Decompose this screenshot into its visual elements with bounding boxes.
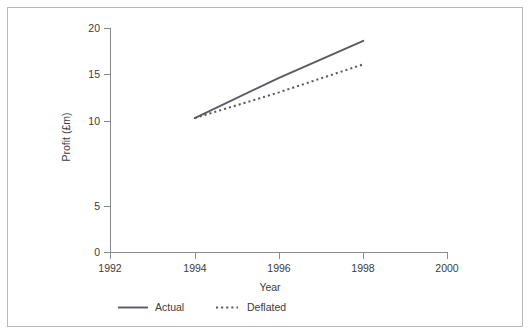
x-tick-label-1992: 1992 — [98, 262, 122, 274]
y-tick-label-20: 20 — [88, 22, 100, 34]
x-tick-label-1996: 1996 — [267, 262, 291, 274]
legend-label-actual: Actual — [155, 301, 184, 313]
chart-legend: Actual Deflated — [118, 301, 286, 313]
chart-figure: 0 5 10 15 20 1992 1994 1996 1998 2000 Ye… — [0, 0, 530, 336]
series-line-actual — [195, 41, 364, 118]
y-tick-label-5: 5 — [94, 200, 100, 212]
x-axis-title: Year — [259, 281, 281, 293]
series-group — [195, 41, 364, 118]
y-tick-label-0: 0 — [94, 246, 100, 258]
profit-line-chart: 0 5 10 15 20 1992 1994 1996 1998 2000 Ye… — [0, 0, 530, 336]
x-tick-label-1994: 1994 — [183, 262, 207, 274]
x-tick-label-1998: 1998 — [351, 262, 375, 274]
y-tick-label-15: 15 — [88, 68, 100, 80]
y-axis-title: Profit (£m) — [60, 112, 72, 161]
y-tick-group: 0 5 10 15 20 — [88, 22, 110, 258]
y-tick-label-10: 10 — [88, 115, 100, 127]
x-tick-label-2000: 2000 — [435, 262, 459, 274]
series-line-deflated — [195, 64, 364, 118]
x-tick-group: 1992 1994 1996 1998 2000 — [98, 253, 459, 274]
legend-label-deflated: Deflated — [247, 301, 286, 313]
axes-group — [110, 28, 448, 253]
